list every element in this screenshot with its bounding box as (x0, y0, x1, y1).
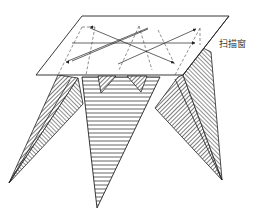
scan-window-diagram (0, 0, 256, 210)
scan-window-label: 扫描窗 (219, 37, 246, 50)
left-pyramid (9, 75, 83, 183)
center-pyramid (82, 77, 160, 208)
